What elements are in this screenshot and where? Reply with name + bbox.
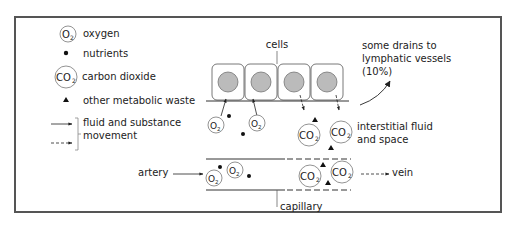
interstitial-co2-1: CO 2	[298, 124, 320, 146]
artery-label: artery	[138, 167, 168, 179]
vein-label: vein	[392, 167, 413, 179]
lymph-label-3: (10%)	[362, 66, 392, 78]
legend-nutrients-label: nutrients	[83, 48, 128, 60]
legend-waste-label: other metabolic waste	[83, 95, 195, 107]
svg-text:2: 2	[215, 179, 219, 185]
legend-co2-icon: CO 2	[55, 66, 77, 88]
svg-text:2: 2	[347, 132, 351, 139]
legend-nutrient-icon	[64, 51, 68, 55]
capillary-label: capillary	[280, 201, 322, 213]
interstitial-label-1: interstitial fluid	[357, 121, 433, 133]
svg-text:2: 2	[315, 135, 319, 142]
interstitial-label-2: and space	[357, 134, 408, 146]
interstitial-o2-2: O 2	[249, 115, 265, 131]
svg-text:2: 2	[236, 171, 240, 177]
svg-text:2: 2	[258, 124, 262, 130]
svg-text:2: 2	[316, 176, 320, 183]
legend-oxygen-label: oxygen	[83, 28, 119, 40]
capillary-o2-1: O 2	[206, 170, 222, 186]
interstitial-co2-2: CO 2	[330, 121, 352, 143]
svg-text:2: 2	[70, 34, 74, 41]
svg-text:CO: CO	[332, 167, 347, 178]
svg-text:2: 2	[72, 77, 76, 84]
lymph-label-1: some drains to	[362, 40, 437, 52]
cells-row	[212, 64, 343, 100]
lymph-label-2: lymphatic vessels	[362, 53, 451, 65]
capillary-o2-2: O 2	[227, 162, 243, 178]
svg-text:2: 2	[217, 126, 221, 132]
legend-movement-label-2: movement	[83, 130, 137, 142]
svg-text:CO: CO	[300, 171, 315, 182]
svg-text:2: 2	[348, 172, 352, 179]
legend-bracket	[75, 118, 78, 150]
capillary-co2-2: CO 2	[331, 161, 353, 183]
svg-text:CO: CO	[331, 127, 346, 138]
svg-text:O: O	[62, 29, 70, 40]
svg-text:CO: CO	[299, 130, 314, 141]
diagram-canvas: O 2 CO 2 O 2 O 2	[0, 0, 518, 229]
interstitial-o2-1: O 2	[208, 117, 224, 133]
legend-waste-icon	[63, 97, 69, 102]
lymph-drain-arrow	[360, 81, 390, 105]
capillary-co2-1: CO 2	[299, 165, 321, 187]
legend-co2-label: carbon dioxide	[82, 71, 156, 83]
cells-label: cells	[266, 39, 288, 51]
svg-text:CO: CO	[56, 72, 71, 83]
legend-movement-label-1: fluid and substance	[83, 117, 181, 129]
legend-o2-icon: O 2	[60, 26, 76, 42]
